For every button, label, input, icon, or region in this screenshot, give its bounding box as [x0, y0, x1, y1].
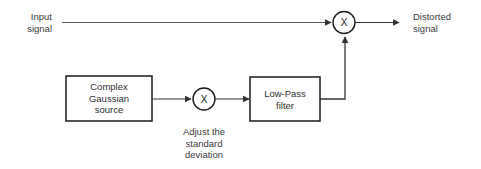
adjust-standard-deviation-caption: Adjust the standard deviation — [154, 126, 254, 161]
low-pass-filter-label: Low-Pass filter — [250, 88, 320, 111]
distorted-signal-label: Distorted signal — [413, 11, 481, 34]
block-diagram-canvas: Input signal Distorted signal Complex Ga… — [0, 0, 481, 169]
gaussian-source-label: Complex Gaussian source — [66, 81, 152, 116]
input-signal-label: Input signal — [0, 11, 52, 34]
top-multiplier-symbol: X — [334, 18, 354, 28]
mid-multiplier-symbol: X — [194, 95, 214, 105]
filter-feedback-wire — [320, 37, 345, 99]
